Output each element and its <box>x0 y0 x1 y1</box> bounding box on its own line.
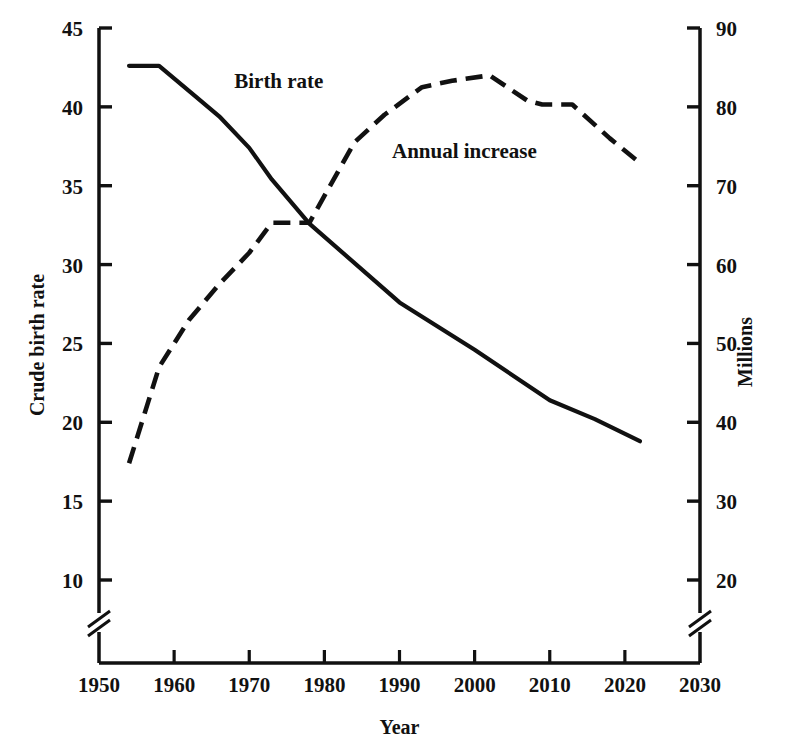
left-axis-group: 1015202530354045 <box>62 17 112 663</box>
left-tick-label: 25 <box>62 332 83 356</box>
x-axis-ticks <box>174 650 625 663</box>
left-axis-ticks <box>99 28 112 580</box>
left-tick-label: 40 <box>62 96 83 120</box>
x-tick-label: 1970 <box>228 673 270 697</box>
left-tick-label: 15 <box>62 490 83 514</box>
series-line-birth-rate <box>129 66 640 441</box>
right-tick-label: 30 <box>716 490 737 514</box>
chart-svg: 1015202530354045 2030405060708090 195019… <box>0 0 786 740</box>
series-label-annual-increase: Annual increase <box>392 139 537 163</box>
x-tick-label: 2030 <box>679 673 721 697</box>
left-axis-tick-labels: 1015202530354045 <box>62 17 83 593</box>
y-axis-title: Crude birth rate <box>26 274 48 416</box>
x-axis-tick-labels: 195019601970198019902000201020202030 <box>78 673 721 697</box>
x-tick-label: 1950 <box>78 673 120 697</box>
x-tick-label: 2010 <box>529 673 571 697</box>
right-tick-label: 90 <box>716 17 737 41</box>
x-axis-title: Year <box>380 716 420 738</box>
y2-axis-title: Millions <box>734 317 756 387</box>
left-tick-label: 30 <box>62 254 83 278</box>
x-tick-label: 2020 <box>604 673 646 697</box>
x-tick-label: 2000 <box>454 673 496 697</box>
left-tick-label: 35 <box>62 175 83 199</box>
right-tick-label: 60 <box>716 254 737 278</box>
right-axis-tick-labels: 2030405060708090 <box>716 17 737 593</box>
x-tick-label: 1980 <box>303 673 345 697</box>
right-axis-ticks <box>687 28 700 580</box>
right-tick-label: 70 <box>716 175 737 199</box>
left-tick-label: 10 <box>62 569 83 593</box>
x-tick-label: 1960 <box>153 673 195 697</box>
right-tick-label: 20 <box>716 569 737 593</box>
right-axis-group: 2030405060708090 <box>687 17 737 663</box>
right-tick-label: 40 <box>716 411 737 435</box>
x-tick-label: 1990 <box>379 673 421 697</box>
series-group <box>129 66 640 463</box>
chart-container: 1015202530354045 2030405060708090 195019… <box>0 0 786 740</box>
bottom-axis-group: 195019601970198019902000201020202030 <box>78 650 721 697</box>
series-label-birth-rate: Birth rate <box>234 69 323 93</box>
left-tick-label: 45 <box>62 17 83 41</box>
right-tick-label: 80 <box>716 96 737 120</box>
left-tick-label: 20 <box>62 411 83 435</box>
